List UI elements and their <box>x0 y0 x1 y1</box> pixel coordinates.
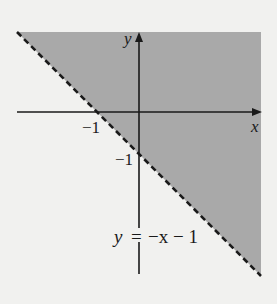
x-axis-label: x <box>250 117 259 136</box>
equation-y: y <box>112 226 123 247</box>
equation-label: y = −x − 1 <box>112 226 198 247</box>
equation-equals: = <box>131 226 142 247</box>
y-axis-label: y <box>122 29 132 48</box>
equation-rhs: −x − 1 <box>148 226 198 247</box>
inequality-graph: y x −1 −1 y = −x − 1 <box>0 0 277 304</box>
y-tick-label: −1 <box>115 150 133 169</box>
x-tick-label: −1 <box>82 118 100 137</box>
